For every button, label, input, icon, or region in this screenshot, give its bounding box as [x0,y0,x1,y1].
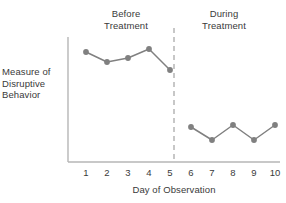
x-tick-label: 9 [244,167,264,178]
data-point [146,46,152,52]
x-tick-label: 1 [76,167,96,178]
data-point [188,124,194,130]
phase-label-during: During Treatment [182,8,266,31]
x-tick-label: 7 [202,167,222,178]
x-tick-label: 2 [97,167,117,178]
x-tick-label: 8 [223,167,243,178]
x-tick-label: 4 [139,167,159,178]
series-before-treatment [83,46,173,73]
data-point [104,59,110,65]
data-point [167,67,173,73]
data-point [125,55,131,61]
data-point [230,122,236,128]
series-during-treatment [188,122,278,143]
data-point [251,137,257,143]
y-axis-title: Measure of Disruptive Behavior [2,66,66,101]
data-point [272,122,278,128]
x-tick-label: 10 [265,167,285,178]
data-point [209,137,215,143]
data-point [83,49,89,55]
chart-figure: Before Treatment During Treatment Measur… [0,0,286,203]
x-axis-title: Day of Observation [68,184,280,195]
x-tick-label: 5 [160,167,180,178]
x-tick-label: 3 [118,167,138,178]
x-tick-label: 6 [181,167,201,178]
phase-label-before: Before Treatment [84,8,168,31]
